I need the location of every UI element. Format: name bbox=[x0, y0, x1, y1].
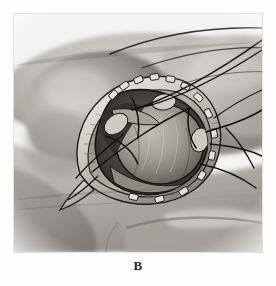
plate-page: B bbox=[0, 0, 276, 286]
surgical-illustration bbox=[14, 14, 262, 252]
figure-caption: B bbox=[0, 258, 276, 274]
plate-vignette bbox=[14, 14, 262, 252]
plate-frame bbox=[14, 14, 262, 252]
